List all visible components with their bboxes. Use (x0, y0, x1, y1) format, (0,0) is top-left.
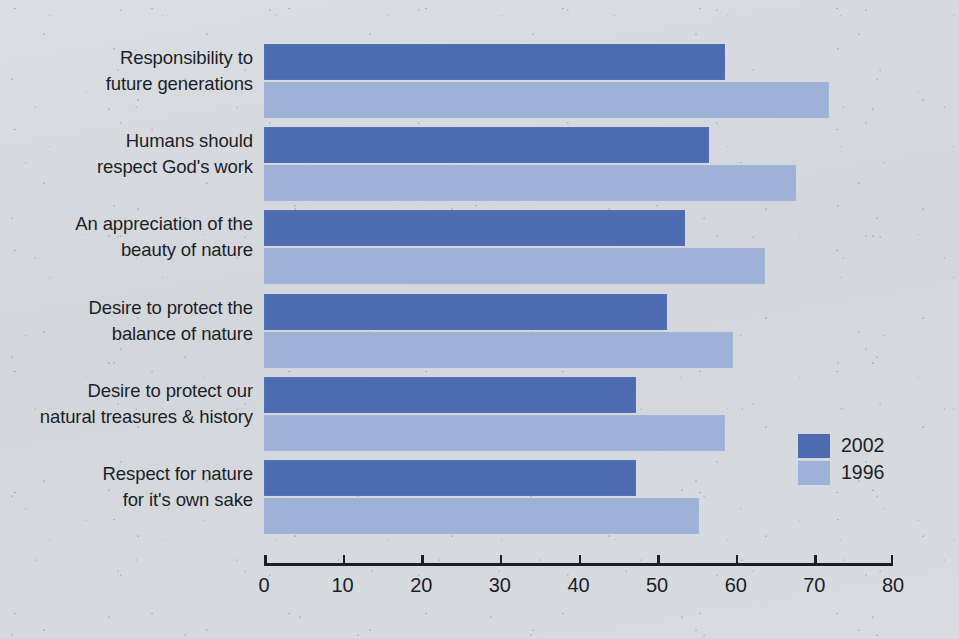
bar-2002-5 (264, 460, 636, 496)
category-label-line: for it's own sake (0, 487, 253, 513)
legend-swatch-2002 (798, 434, 830, 458)
category-label-2: An appreciation of thebeauty of nature (0, 211, 253, 263)
bar-1996-2 (264, 248, 765, 284)
bar-2002-4 (264, 377, 636, 413)
x-axis-tick-label-80: 80 (863, 572, 923, 598)
bar-2002-0 (264, 44, 725, 80)
category-label-line: Desire to protect the (0, 295, 253, 321)
bar-2002-3 (264, 294, 667, 330)
x-axis-tick-label-50: 50 (627, 572, 687, 598)
category-label-line: An appreciation of the (0, 211, 253, 237)
category-label-line: beauty of nature (0, 237, 253, 263)
x-axis-tick-label-60: 60 (706, 572, 766, 598)
bar-1996-1 (264, 165, 796, 201)
plot-area: Responsibility tofuture generationsHuman… (0, 0, 959, 639)
category-label-line: Humans should (0, 128, 253, 154)
category-label-5: Respect for naturefor it's own sake (0, 461, 253, 513)
category-label-line: natural treasures & history (0, 404, 253, 430)
bar-1996-3 (264, 332, 733, 368)
x-axis-tick-label-40: 40 (549, 572, 609, 598)
x-axis-tick-label-70: 70 (784, 572, 844, 598)
category-label-1: Humans shouldrespect God's work (0, 128, 253, 180)
bar-2002-2 (264, 210, 685, 246)
bar-2002-1 (264, 127, 709, 163)
bar-1996-5 (264, 498, 699, 534)
x-axis-tick-label-20: 20 (391, 572, 451, 598)
category-label-line: Respect for nature (0, 461, 253, 487)
x-axis-line (264, 563, 893, 566)
bar-chart: Responsibility tofuture generationsHuman… (0, 0, 959, 639)
category-label-line: respect God's work (0, 154, 253, 180)
x-axis-tick-label-0: 0 (234, 572, 294, 598)
category-label-4: Desire to protect ournatural treasures &… (0, 378, 253, 430)
category-label-3: Desire to protect thebalance of nature (0, 295, 253, 347)
legend-label-2002: 2002 (841, 432, 884, 459)
category-label-line: Responsibility to (0, 45, 253, 71)
bar-1996-0 (264, 82, 829, 118)
x-axis-tick-label-30: 30 (470, 572, 530, 598)
legend-label-1996: 1996 (841, 459, 884, 486)
legend-swatch-1996 (798, 461, 830, 485)
x-axis-tick-label-10: 10 (313, 572, 373, 598)
category-label-0: Responsibility tofuture generations (0, 45, 253, 97)
category-label-line: future generations (0, 71, 253, 97)
bar-1996-4 (264, 415, 725, 451)
category-label-line: Desire to protect our (0, 378, 253, 404)
category-label-line: balance of nature (0, 321, 253, 347)
